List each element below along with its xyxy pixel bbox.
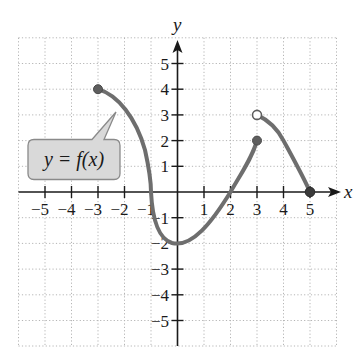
axes bbox=[19, 45, 335, 346]
x-tick-label: 4 bbox=[279, 200, 288, 219]
y-tick-label: 4 bbox=[161, 80, 170, 99]
closed-point-marker bbox=[94, 85, 103, 94]
function-callout: y = f(x) bbox=[28, 112, 120, 180]
function-graph: −5 −4 −3 −2 −1 1 2 3 4 5 5 4 3 2 1 −1 −2… bbox=[0, 0, 357, 350]
y-tick-label: −5 bbox=[151, 312, 169, 331]
callout-text: y = f(x) bbox=[42, 148, 104, 171]
y-tick-label: 3 bbox=[161, 106, 170, 125]
y-axis-label: y bbox=[171, 14, 182, 35]
x-tick-label: 3 bbox=[253, 200, 262, 219]
x-tick-label: −2 bbox=[110, 200, 128, 219]
x-tick-label: −5 bbox=[31, 200, 49, 219]
y-tick-label: −3 bbox=[151, 260, 169, 279]
closed-point-marker bbox=[305, 187, 315, 197]
x-tick-labels: −5 −4 −3 −2 −1 1 2 3 4 5 bbox=[31, 200, 314, 219]
graph-canvas: −5 −4 −3 −2 −1 1 2 3 4 5 5 4 3 2 1 −1 −2… bbox=[0, 0, 357, 350]
y-tick-label: −2 bbox=[151, 234, 169, 253]
x-tick-label: 5 bbox=[306, 200, 315, 219]
y-tick-label: −4 bbox=[151, 286, 170, 305]
y-tick-label: 2 bbox=[161, 132, 170, 151]
y-tick-label: 1 bbox=[161, 157, 170, 176]
x-tick-label: −4 bbox=[57, 200, 76, 219]
x-tick-label: 1 bbox=[200, 200, 209, 219]
function-curves bbox=[98, 89, 310, 243]
x-tick-label: −3 bbox=[84, 200, 102, 219]
x-tick-label: 2 bbox=[226, 200, 235, 219]
closed-point-marker bbox=[253, 136, 262, 145]
x-axis-label: x bbox=[343, 181, 353, 202]
y-tick-label: 5 bbox=[161, 55, 170, 74]
open-point-marker bbox=[253, 110, 262, 119]
